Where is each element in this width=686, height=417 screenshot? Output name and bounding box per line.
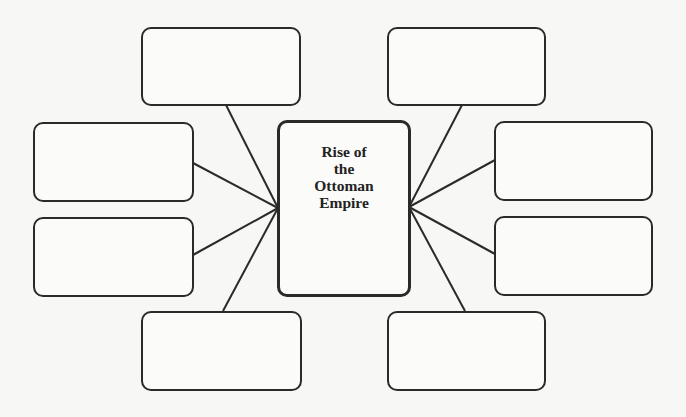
box-right-lower[interactable] [494, 216, 653, 296]
box-top-left[interactable] [141, 27, 301, 106]
connector-left-upper [193, 163, 278, 208]
box-bottom-right[interactable] [387, 311, 546, 391]
center-title: Rise of the Ottoman Empire [294, 143, 394, 294]
box-left-upper[interactable] [33, 122, 194, 202]
box-left-lower[interactable] [33, 217, 194, 297]
center-topic-box: Rise of the Ottoman Empire [277, 120, 411, 297]
box-bottom-left[interactable] [141, 311, 302, 391]
box-top-right[interactable] [387, 27, 546, 106]
box-right-upper[interactable] [494, 121, 653, 201]
connector-top-left [226, 105, 278, 208]
